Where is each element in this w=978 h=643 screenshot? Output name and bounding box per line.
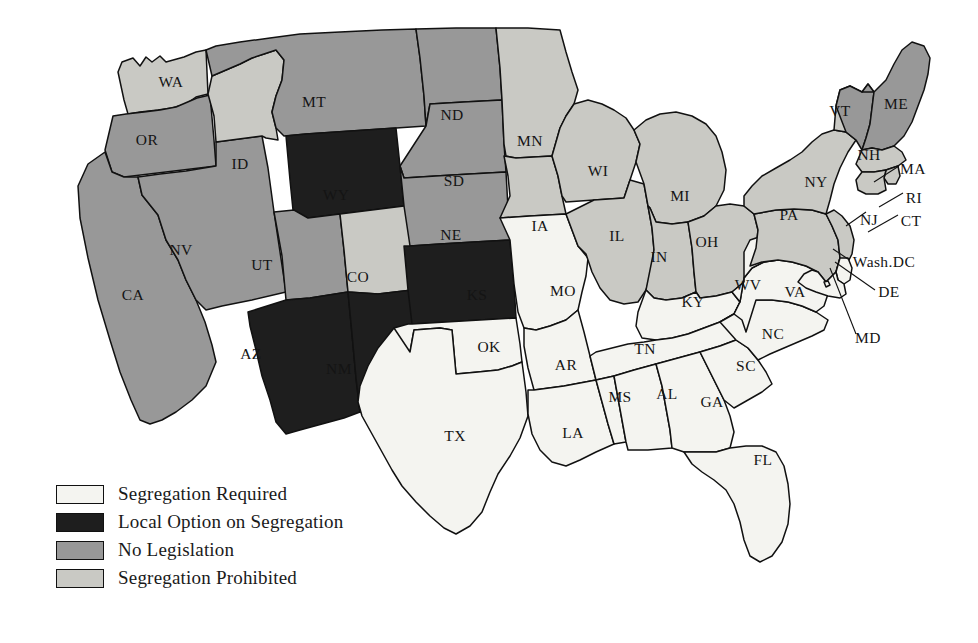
- state-label-tx: TX: [444, 427, 465, 444]
- state-label-wy: WY: [323, 186, 350, 203]
- state-ct[interactable]: [856, 170, 886, 194]
- callout-label-md: MD: [855, 329, 881, 346]
- state-label-ks: KS: [467, 286, 488, 303]
- state-label-vt: VT: [829, 102, 851, 119]
- state-label-ok: OK: [477, 338, 501, 355]
- state-ny[interactable]: [744, 130, 856, 214]
- state-label-ga: GA: [700, 393, 724, 410]
- state-label-ca: CA: [122, 286, 145, 303]
- state-label-nm: NM: [326, 360, 352, 377]
- state-label-az: AZ: [240, 345, 261, 362]
- state-label-nc: NC: [762, 325, 784, 342]
- state-label-ny: NY: [804, 173, 827, 190]
- state-label-sc: SC: [736, 357, 756, 374]
- callout-label-ma: MA: [900, 160, 926, 177]
- legend-label: Segregation Prohibited: [118, 567, 297, 589]
- callout-label-de: DE: [878, 283, 899, 300]
- state-label-wv: WV: [735, 276, 762, 293]
- legend-swatch: [56, 513, 104, 532]
- state-label-ms: MS: [608, 388, 631, 405]
- state-label-mn: MN: [517, 132, 543, 149]
- state-label-wi: WI: [588, 162, 609, 179]
- state-label-nv: NV: [169, 241, 193, 258]
- state-label-tn: TN: [634, 340, 655, 357]
- callout-label-washdc: Wash.DC: [853, 253, 915, 270]
- state-label-ar: AR: [555, 356, 578, 373]
- state-label-id: ID: [231, 155, 248, 172]
- legend-row[interactable]: No Legislation: [56, 536, 386, 564]
- legend-row[interactable]: Segregation Prohibited: [56, 564, 386, 592]
- state-label-mi: MI: [670, 187, 690, 204]
- legend-swatch: [56, 569, 104, 588]
- state-label-ne: NE: [440, 226, 461, 243]
- legend-label: Segregation Required: [118, 483, 287, 505]
- state-label-or: OR: [136, 131, 159, 148]
- state-label-ut: UT: [251, 256, 273, 273]
- leader-line-ri: [879, 193, 903, 207]
- state-ks[interactable]: [404, 240, 516, 324]
- state-label-nh: NH: [857, 146, 880, 163]
- legend-swatch: [56, 485, 104, 504]
- callout-label-nj: NJ: [860, 211, 878, 228]
- state-label-fl: FL: [754, 451, 773, 468]
- state-label-va: VA: [784, 283, 806, 300]
- state-label-co: CO: [347, 268, 369, 285]
- state-label-sd: SD: [444, 172, 465, 189]
- state-label-mo: MO: [550, 282, 576, 299]
- legend-label: No Legislation: [118, 539, 234, 561]
- legend-row[interactable]: Segregation Required: [56, 480, 386, 508]
- state-ut[interactable]: [274, 210, 348, 300]
- state-label-pa: PA: [779, 206, 799, 223]
- state-label-nd: ND: [440, 106, 463, 123]
- state-wy[interactable]: [286, 128, 404, 220]
- state-label-oh: OH: [695, 233, 718, 250]
- legend-label: Local Option on Segregation: [118, 511, 343, 533]
- state-label-al: AL: [656, 385, 677, 402]
- state-label-mt: MT: [302, 93, 326, 110]
- state-label-ky: KY: [681, 293, 704, 310]
- legend-swatch: [56, 541, 104, 560]
- map-legend: Segregation RequiredLocal Option on Segr…: [56, 480, 386, 592]
- legend-row[interactable]: Local Option on Segregation: [56, 508, 386, 536]
- state-label-wa: WA: [159, 73, 184, 90]
- state-label-me: ME: [884, 95, 908, 112]
- callout-label-ri: RI: [906, 189, 922, 206]
- state-fl[interactable]: [684, 446, 790, 562]
- state-dc[interactable]: [824, 281, 830, 287]
- callout-label-ct: CT: [901, 212, 922, 229]
- state-label-la: LA: [562, 424, 584, 441]
- state-label-in: IN: [650, 248, 667, 265]
- state-label-il: IL: [609, 227, 624, 244]
- state-label-ia: IA: [531, 217, 549, 234]
